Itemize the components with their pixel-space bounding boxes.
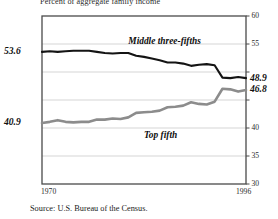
y-axis-tick-label: 35 [252,151,260,160]
series-label: Middle three-fifths [128,36,201,46]
y-axis-tick-label: 55 [252,39,260,48]
source-note: Source: U.S. Bureau of the Census. [30,204,148,213]
series-line [42,51,246,78]
value-annotation: 48.9 [250,72,267,83]
value-annotation: 53.6 [4,45,21,56]
series-label: Top fifth [144,130,177,140]
y-axis-tick-label: 60 [252,11,260,20]
series-line [42,89,246,123]
value-annotation: 40.9 [4,116,21,127]
y-axis-tick-label: 30 [252,179,260,188]
value-annotation: 46.8 [250,83,267,94]
x-axis-tick-label: 1996 [236,187,251,196]
y-axis-tick-label: 40 [252,123,260,132]
x-axis-tick-label: 1970 [41,187,56,196]
figure-container: Percent of aggregate family income Sourc… [0,0,278,219]
